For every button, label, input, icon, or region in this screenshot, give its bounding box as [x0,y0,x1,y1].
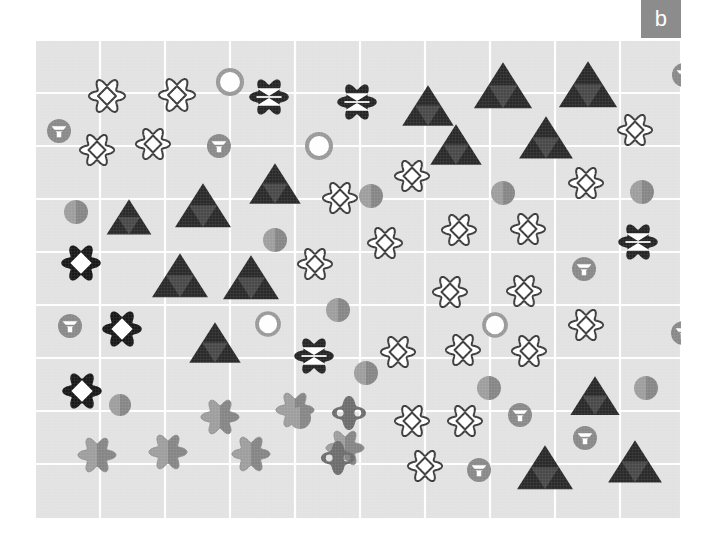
marker-flower-diamond-outline [446,335,480,365]
marker-circle-funnel [58,314,82,338]
marker-circle-ring [484,314,506,336]
marker-circle-gray [262,227,288,253]
marker-flower-diamond-outline [381,337,415,367]
marker-circle-funnel [671,321,681,345]
marker-circle-gray [63,199,89,225]
marker-flower-diamond-outline [569,168,603,198]
marker-circle-gray [490,180,516,206]
figure-panel: b [0,0,712,536]
plot-area [35,40,681,519]
marker-diamond-lens [316,436,360,480]
marker-circle-funnel [207,134,231,158]
marker-circle-gray [353,360,379,386]
marker-triangle-dark [519,116,573,158]
marker-triangle-dark [223,255,279,299]
marker-flower-diamond-outline [89,80,125,112]
marker-triangle-dark [189,322,241,362]
marker-circle-gray [108,393,132,417]
marker-flower-diamond-outline [80,135,114,165]
marker-flower-diamond-outline [442,215,476,245]
marker-flower-gray [76,434,118,476]
marker-circle-gray [358,183,384,209]
marker-triangle-dark [175,183,231,227]
marker-circle-gray [476,375,502,401]
marker-triangle-dark [107,199,152,234]
marker-circle-gray [633,375,659,401]
marker-triangle-dark [559,61,617,107]
marker-circle-funnel [672,63,681,87]
marker-triangle-dark [517,445,573,489]
marker-flower-diamond-outline [433,277,467,307]
marker-circle-funnel [467,458,491,482]
marker-triangle-dark [430,124,482,164]
marker-flower-diamond-outline [395,161,429,191]
marker-circle-funnel [573,426,597,450]
marker-flower-diamond-outline [511,214,545,244]
marker-flower-gray [199,396,241,438]
marker-circle-ring [218,70,242,94]
marker-flower-diamond-outline [136,129,170,159]
marker-triangle-dark [570,376,619,415]
marker-flower-diamond-outline [507,276,541,306]
marker-flower-diamond-outline [368,228,402,258]
marker-flower-diamond-dark [103,312,141,346]
marker-circle-gray [325,297,351,323]
marker-flower-diamond-outline [512,336,546,366]
marker-flower-hourglass-dark [619,225,657,259]
marker-circle-ring [257,313,279,335]
marker-flower-gray [230,433,272,475]
marker-flower-diamond-outline [448,406,482,436]
marker-flower-diamond-outline [618,115,652,145]
marker-circle-gray [629,179,655,205]
marker-flower-diamond-dark [63,374,101,408]
marker-triangle-dark [474,62,532,108]
marker-triangle-dark [402,85,454,125]
marker-triangle-dark [152,253,208,297]
marker-flower-hourglass-dark [295,339,333,373]
marker-flower-diamond-outline [323,183,357,213]
marker-flower-hourglass-dark [250,80,288,114]
marker-circle-funnel [508,403,532,427]
marker-flower-diamond-outline [159,79,195,111]
marker-circle-ring [307,134,331,158]
marker-flower-gray [147,431,189,473]
marker-diamond-lens [327,391,371,435]
marker-flower-diamond-outline [298,249,332,279]
marker-triangle-dark [608,440,662,482]
marker-circle-funnel [572,257,596,281]
marker-flower-diamond-outline [408,451,442,481]
marker-triangle-dark [249,163,301,203]
marker-flower-diamond-outline [395,406,429,436]
marker-flower-diamond-dark [62,246,100,280]
marker-layer [35,40,681,519]
marker-flower-diamond-outline [569,310,603,340]
panel-label: b [641,0,681,38]
marker-flower-hourglass-dark [338,85,376,119]
marker-circle-funnel [47,119,71,143]
